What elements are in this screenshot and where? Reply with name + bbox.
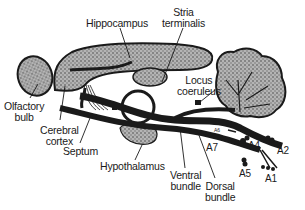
septum-fibers bbox=[84, 85, 108, 110]
label-dorsal-bundle: Dorsal bundle bbox=[205, 181, 235, 203]
label-stria-line2: terminalis bbox=[162, 18, 205, 29]
label-a4: A4 bbox=[248, 140, 260, 151]
label-a5: A5 bbox=[239, 168, 251, 179]
ventral-bundle-path bbox=[60, 108, 260, 150]
label-ventral-bundle: Ventral bundle bbox=[170, 170, 201, 192]
label-olfactory-bulb: Olfactory bulb bbox=[4, 101, 44, 123]
label-a1: A1 bbox=[265, 173, 277, 184]
locus-coeruleus-cluster bbox=[195, 100, 201, 105]
label-a2: A2 bbox=[277, 145, 289, 156]
label-hippocampus: Hippocampus bbox=[86, 18, 148, 29]
label-dorsal-line2: bundle bbox=[205, 192, 235, 203]
label-a6: A6 bbox=[214, 125, 220, 136]
label-septum: Septum bbox=[63, 146, 98, 157]
label-a7: A7 bbox=[206, 142, 218, 153]
label-hypothalamus: Hypothalamus bbox=[100, 161, 165, 172]
label-cerebral-cortex: Cerebral cortex bbox=[40, 125, 79, 147]
olfactory-bulb-shape bbox=[12, 51, 58, 100]
label-stria-terminalis: Stria terminalis bbox=[162, 7, 205, 29]
hippocampus-shape bbox=[133, 68, 167, 86]
label-locus-line2: coeruleus bbox=[177, 86, 221, 97]
label-olfactory-line2: bulb bbox=[4, 112, 44, 123]
brain-diagram: Hippocampus Stria terminalis Locus coeru… bbox=[0, 0, 305, 210]
brain-drawing bbox=[0, 0, 305, 210]
label-ventral-line2: bundle bbox=[170, 181, 201, 192]
label-locus-coeruleus: Locus coeruleus bbox=[177, 75, 221, 97]
